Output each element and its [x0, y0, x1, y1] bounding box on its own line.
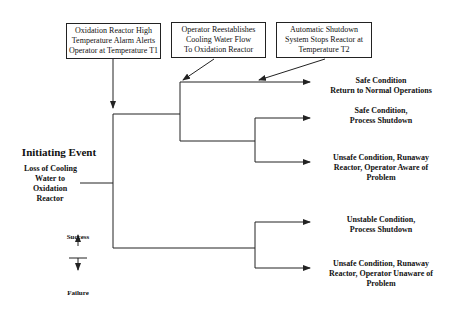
outcome-text: Reactor, Operator Unaware of	[318, 269, 444, 279]
event-text: Operator Reestablishes	[173, 25, 264, 35]
initiating-event-title: Initiating Event	[14, 146, 104, 159]
event-text: System Stops Reactor at	[278, 35, 370, 45]
event3-arrow	[259, 59, 325, 80]
outcome-text: Unsafe Condition, Runaway	[318, 259, 444, 269]
initiating-event-text: Reactor	[24, 194, 76, 204]
outcome-text: Problem	[318, 173, 444, 183]
initiating-event-text: Oxidation	[24, 184, 76, 194]
outcome-text: Unsafe Condition, Runaway	[318, 153, 444, 163]
initiating-event-text: Loss of Cooling	[24, 164, 76, 174]
event-box-operator-reestablishes: Operator Reestablishes Cooling Water Flo…	[171, 22, 266, 58]
outcome-text: Unstable Condition,	[318, 215, 444, 225]
outcome-text: Safe Condition	[318, 76, 444, 86]
outcome-unstable-shutdown: Unstable Condition, Process Shutdown	[318, 215, 444, 235]
event-box-high-temp-alarm: Oxidation Reactor High Temperature Alarm…	[66, 23, 161, 59]
outcome-safe-normal: Safe Condition Return to Normal Operatio…	[318, 76, 444, 96]
outcome-unsafe-aware: Unsafe Condition, Runaway Reactor, Opera…	[318, 153, 444, 183]
outcome-text: Safe Condition,	[318, 106, 444, 116]
event2-arrow	[183, 59, 214, 80]
outcome-text: Process Shutdown	[318, 116, 444, 126]
event-text: Temperature T2	[278, 45, 370, 55]
event-text: To Oxidation Reactor	[173, 45, 264, 55]
outcome-safe-shutdown: Safe Condition, Process Shutdown	[318, 106, 444, 126]
event-text: Oxidation Reactor High	[68, 26, 159, 36]
outcome-text: Return to Normal Operations	[318, 86, 444, 96]
outcome-text: Reactor, Operator Aware of	[318, 163, 444, 173]
event-text: Cooling Water Flow	[173, 35, 264, 45]
initiating-event-text: Water to	[24, 174, 76, 184]
legend-failure-label: Failure	[58, 288, 98, 298]
legend-success-label: Success	[58, 232, 98, 242]
event-text: Operator at Temperature T1	[68, 46, 159, 56]
outcome-text: Process Shutdown	[318, 225, 444, 235]
outcome-unsafe-unaware: Unsafe Condition, Runaway Reactor, Opera…	[318, 259, 444, 289]
outcome-text: Problem	[318, 279, 444, 289]
event-text: Automatic Shutdown	[278, 25, 370, 35]
initiating-event-description: Loss of Cooling Water to Oxidation React…	[24, 164, 76, 204]
event-box-automatic-shutdown: Automatic Shutdown System Stops Reactor …	[276, 22, 372, 58]
event-text: Temperature Alarm Alerts	[68, 36, 159, 46]
